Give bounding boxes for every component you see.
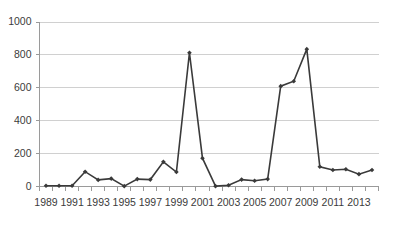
y-tick-label: 0	[26, 180, 32, 192]
x-tick-labels: 1989199119931995199719992001200320052007…	[34, 196, 370, 208]
gridlines	[40, 22, 379, 187]
chart-canvas: 02004006008001000 1989199119931995199719…	[0, 0, 395, 225]
data-point-marker	[370, 168, 375, 173]
data-point-marker	[187, 50, 192, 55]
x-tick-label: 1989	[34, 196, 58, 208]
data-point-marker	[239, 177, 244, 182]
y-tick-labels: 02004006008001000	[8, 15, 32, 192]
y-tick-label: 1000	[8, 15, 32, 27]
x-tick-label: 1995	[113, 196, 137, 208]
data-point-marker	[57, 183, 62, 188]
x-tick-label: 1993	[86, 196, 110, 208]
data-point-marker	[331, 168, 336, 173]
x-tick-label: 2011	[322, 196, 345, 208]
x-tick-label: 1991	[60, 196, 84, 208]
data-point-marker	[344, 167, 349, 172]
y-axis	[36, 22, 40, 187]
data-point-marker	[291, 79, 296, 84]
x-tick-label: 2013	[347, 196, 371, 208]
x-tick-label: 2009	[295, 196, 319, 208]
data-point-marker	[357, 172, 362, 177]
data-point-marker	[44, 183, 49, 188]
x-tick-label: 1997	[139, 196, 163, 208]
series-line	[46, 49, 372, 186]
line-chart: 02004006008001000 1989199119931995199719…	[0, 0, 395, 225]
y-tick-label: 800	[14, 48, 32, 60]
x-tick-label: 2001	[191, 196, 215, 208]
y-tick-label: 200	[14, 147, 32, 159]
data-point-marker	[304, 47, 309, 52]
data-point-marker	[265, 177, 270, 182]
y-tick-label: 600	[14, 81, 32, 93]
x-axis	[40, 187, 379, 191]
x-tick-label: 2003	[217, 196, 241, 208]
x-tick-label: 2005	[243, 196, 267, 208]
x-tick-label: 1999	[165, 196, 189, 208]
x-tick-label: 2007	[269, 196, 293, 208]
y-tick-label: 400	[14, 114, 32, 126]
data-point-marker	[318, 164, 323, 169]
data-series	[46, 49, 372, 186]
data-point-marker	[252, 178, 257, 183]
